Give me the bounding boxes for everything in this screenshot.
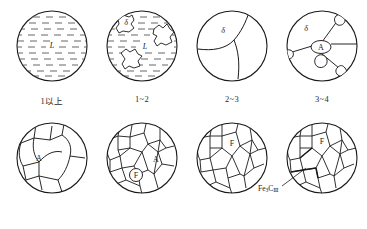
panel-3-label-delta: δ bbox=[221, 26, 225, 35]
panel-1-label-L: L bbox=[49, 41, 55, 50]
carbide-fe: Fe bbox=[258, 184, 266, 193]
panel-6-drawing: A F bbox=[96, 118, 188, 200]
panel-4-label-delta: δ bbox=[304, 24, 308, 33]
panel-3: δ 2~3 bbox=[186, 6, 278, 106]
panel-5: A 4~5 bbox=[6, 118, 98, 218]
panel-2: δ L 1~2 bbox=[96, 6, 188, 106]
nucleus-bottom-center bbox=[315, 55, 327, 68]
panel-7: F 6~7 bbox=[186, 118, 278, 218]
panel-4-label-A: A bbox=[318, 43, 324, 52]
panel-4-drawing: δ A bbox=[276, 6, 367, 88]
panel-5-label-A: A bbox=[36, 154, 42, 163]
panel-2-caption: 1~2 bbox=[96, 94, 188, 104]
panel-4: δ A 3~4 bbox=[276, 6, 367, 106]
nucleus-bottom-right bbox=[336, 66, 347, 76]
panel-6: A F 5~6 bbox=[96, 118, 188, 218]
microstructure-figure: — —— ———— —— ——— — —— —— L 1以上 bbox=[0, 0, 367, 229]
panel-2-label-L: L bbox=[142, 42, 148, 51]
panel-5-circle bbox=[17, 123, 87, 193]
panel-1-drawing: L bbox=[6, 6, 98, 88]
carbide-annotation: Fe3CⅢ bbox=[258, 184, 279, 193]
panel-1: L 1以上 bbox=[6, 6, 98, 106]
panel-2-label-delta: δ bbox=[124, 18, 128, 27]
panel-7-label-F: F bbox=[230, 139, 235, 148]
panel-8: Fe3CⅢ F 7以上 bbox=[276, 118, 367, 218]
panel-2-drawing: δ L bbox=[96, 6, 188, 88]
panel-6-label-A: A bbox=[153, 155, 159, 164]
panel-3-caption: 2~3 bbox=[186, 94, 278, 104]
panel-3-circle bbox=[197, 11, 267, 81]
panel-3-drawing: δ bbox=[186, 6, 278, 88]
carbide-sub-III: Ⅲ bbox=[273, 187, 278, 193]
panel-8-drawing bbox=[276, 118, 367, 200]
cut-off-header-text: — —— ———— —— ——— — —— —— bbox=[8, 0, 360, 4]
panel-5-drawing: A bbox=[6, 118, 98, 200]
panel-4-caption: 3~4 bbox=[276, 94, 367, 104]
panel-6-label-F: F bbox=[134, 171, 139, 180]
nucleus-top-right bbox=[335, 15, 345, 26]
panel-1-caption: 1以上 bbox=[6, 94, 98, 106]
